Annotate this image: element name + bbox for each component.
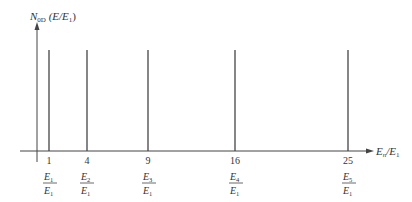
svg-text:E4: E4: [229, 171, 240, 183]
tick-labels: 1 4 9 16 25: [47, 155, 354, 166]
svg-text:E1: E1: [43, 171, 53, 183]
tick-label: 16: [230, 155, 240, 166]
tick-label: 25: [343, 155, 353, 166]
fraction-label: E5 E1: [342, 171, 356, 197]
fraction-label: E4 E1: [229, 171, 243, 197]
svg-text:E1: E1: [142, 185, 152, 197]
x-axis-label: En/E1: [375, 145, 400, 159]
fraction-label: E1 E1: [43, 171, 57, 197]
fraction-labels: E1 E1 E2 E1 E3 E1 E4 E1 E5 E1: [43, 171, 356, 197]
svg-text:E1: E1: [43, 185, 53, 197]
x-axis-arrow-icon: [366, 149, 374, 154]
tick-label: 1: [47, 155, 52, 166]
svg-text:E2: E2: [80, 171, 90, 183]
density-of-states-diagram: N0D (E/E1) En/E1 1 4 9 16 25 E1 E1 E2 E1…: [0, 0, 412, 202]
tick-label: 4: [85, 155, 90, 166]
fraction-label: E3 E1: [142, 171, 156, 197]
y-axis-label: N0D (E/E1): [29, 10, 76, 24]
svg-text:E1: E1: [342, 185, 352, 197]
svg-text:E1: E1: [229, 185, 239, 197]
spikes: [49, 50, 348, 151]
svg-text:E1: E1: [80, 185, 90, 197]
svg-text:E5: E5: [342, 171, 352, 183]
svg-text:E3: E3: [142, 171, 152, 183]
tick-label: 9: [146, 155, 151, 166]
fraction-label: E2 E1: [80, 171, 94, 197]
